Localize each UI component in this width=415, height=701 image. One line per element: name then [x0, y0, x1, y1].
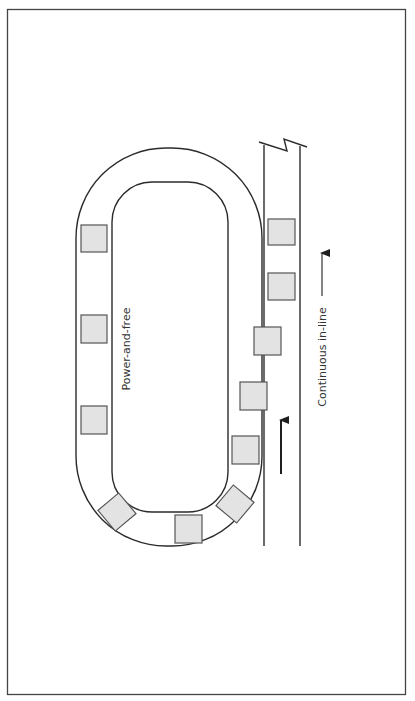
loop-label: Power-and-free — [120, 307, 133, 390]
carrier — [81, 225, 107, 252]
carrier — [81, 315, 107, 343]
carrier — [81, 406, 107, 434]
carrier — [98, 493, 136, 531]
carrier — [268, 273, 295, 300]
carrier — [232, 436, 259, 464]
carrier — [268, 219, 295, 245]
inline-label: Continuous in-line — [316, 307, 329, 407]
figure-frame — [8, 10, 406, 695]
carrier — [175, 515, 202, 543]
carrier — [216, 485, 254, 523]
carrier — [240, 382, 267, 410]
conveyor-diagram: Power-and-free Continuous in-line — [0, 0, 415, 701]
carrier — [254, 327, 281, 355]
